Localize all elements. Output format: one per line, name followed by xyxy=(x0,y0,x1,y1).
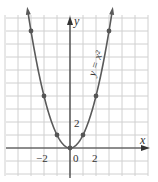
data-point xyxy=(94,94,99,99)
x-tick-label-2: 2 xyxy=(92,152,98,164)
x-tick-label-neg2: −2 xyxy=(36,152,48,164)
x-tick-label-0: 0 xyxy=(73,152,79,164)
data-point xyxy=(42,94,47,99)
data-point xyxy=(107,29,112,34)
data-point xyxy=(55,133,60,138)
data-point xyxy=(81,133,86,138)
y-axis-arrow-icon xyxy=(67,16,73,25)
y-axis-label: y xyxy=(73,14,80,28)
x-axis-label: x xyxy=(139,133,146,147)
curve-arrow-right-icon xyxy=(109,7,114,15)
data-point xyxy=(29,29,34,34)
y-tick-label-2: 2 xyxy=(74,117,80,129)
parabola-chart: x y −2 0 2 2 y = x² xyxy=(0,0,158,182)
equation-label: y = x² xyxy=(85,49,105,79)
data-point xyxy=(68,146,73,151)
curve-arrow-left-icon xyxy=(26,7,31,15)
